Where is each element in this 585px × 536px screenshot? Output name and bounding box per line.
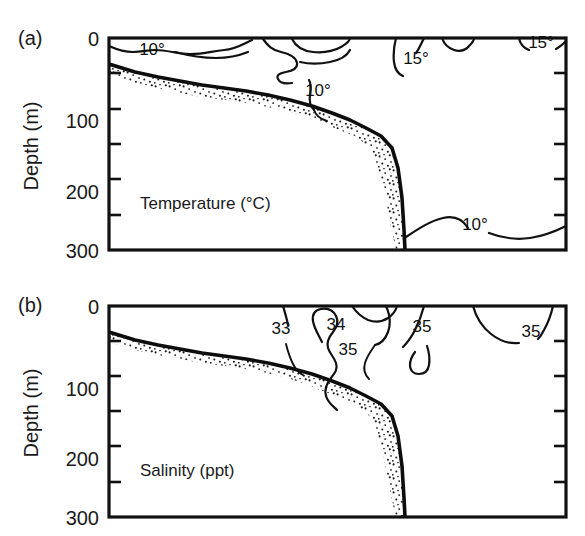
panel-b-seafloor-line <box>109 332 405 517</box>
panel-a-contour-label-3: 15° <box>528 33 554 52</box>
panel-a-contour-10-loop <box>263 39 297 83</box>
panel-b-ytick-200: 200 <box>66 448 99 470</box>
panel-a-right-ticks <box>554 73 566 215</box>
panel-b-ytick-100: 100 <box>66 378 99 400</box>
panel-b-tag: (b) <box>18 294 42 316</box>
panel-b-contour-label-4: 35 <box>522 322 541 341</box>
panel-b-contour-label-3: 35 <box>413 317 432 336</box>
panel-b-contour-35-b2 <box>410 346 429 374</box>
oceanographic-cross-section-figure: (a) 0 100 200 300 Depth (m) <box>0 0 585 536</box>
panel-a-contour-10-loop-b <box>292 38 350 52</box>
panel-a-contour-15-mid <box>442 38 474 51</box>
panel-a-ytick-300: 300 <box>66 240 99 262</box>
panel-b-contour-label-2: 35 <box>339 340 358 359</box>
panel-a-tag: (a) <box>18 27 42 49</box>
panel-b-right-ticks <box>554 341 566 482</box>
panel-b-contour-35-c <box>473 306 519 343</box>
panel-b-contour-label-1: 34 <box>327 315 346 334</box>
panel-b: (b) 0 100 200 300 Depth (m) 33 <box>18 294 566 529</box>
panel-a-contour-label-1: 10° <box>305 81 331 100</box>
panel-a-axis-title: Depth (m) <box>20 102 42 191</box>
panel-a-contour-10-deep <box>406 217 468 237</box>
panel-a-frame <box>109 38 566 250</box>
panel-a-left-ticks <box>109 73 121 215</box>
panel-a-contour-label-0: 10° <box>139 40 165 59</box>
panel-a-ytick-200: 200 <box>66 181 99 203</box>
panel-b-contour-35-a2 <box>375 306 390 345</box>
panel-a-contour-15-left <box>394 38 403 76</box>
panel-b-label-leader-35-a <box>364 345 375 379</box>
panel-a-caption: Temperature (°C) <box>140 194 271 213</box>
panel-a-ytick-100: 100 <box>66 110 99 132</box>
panel-b-ytick-0: 0 <box>88 296 99 318</box>
panel-b-axis-title: Depth (m) <box>20 369 42 458</box>
panel-a-contour-label-4: 10° <box>462 215 488 234</box>
panel-b-left-ticks <box>109 341 121 482</box>
panel-a-ytick-0: 0 <box>88 28 99 50</box>
panel-a-seafloor-line <box>109 64 405 250</box>
panel-a-contour-label-2: 15° <box>403 49 429 68</box>
panel-b-ytick-300: 300 <box>66 507 99 529</box>
panel-b-contour-label-0: 33 <box>272 319 291 338</box>
panel-a-contour-10-surface <box>109 40 252 54</box>
panel-a: (a) 0 100 200 300 Depth (m) <box>18 27 566 262</box>
panel-a-contour-10-deep-b <box>489 226 566 239</box>
panel-b-caption: Salinity (ppt) <box>140 461 234 480</box>
